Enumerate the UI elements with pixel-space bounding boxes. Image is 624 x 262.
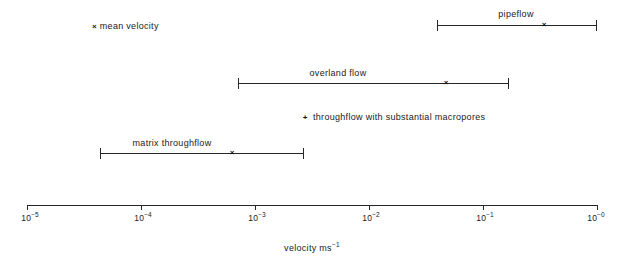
x-axis-tick-label: 10−2 (362, 211, 379, 223)
matrix-throughflow-left-cap (100, 148, 101, 159)
overland-flow-right-cap (508, 78, 509, 89)
tick-exponent: −3 (258, 211, 265, 218)
x-axis-tick-label: 10−3 (248, 211, 265, 223)
legend-label: mean velocity (100, 21, 159, 31)
legend: × mean velocity (92, 21, 159, 31)
x-axis-tick (141, 205, 142, 210)
tick-base: 10 (134, 213, 144, 223)
overland-flow-range-line (238, 83, 508, 84)
x-axis-tick-label: 10−1 (476, 211, 493, 223)
legend-marker-icon: × (92, 22, 97, 31)
x-axis-tick (27, 205, 28, 210)
x-axis-tick-label: 10−5 (21, 211, 38, 223)
overland-flow-left-cap (238, 78, 239, 89)
tick-base: 10 (248, 213, 258, 223)
x-axis-tick (255, 205, 256, 210)
pipeflow-mean-marker: × (542, 21, 547, 29)
matrix-throughflow-mean-marker: × (230, 149, 235, 157)
pipeflow-label: pipeflow (498, 9, 533, 19)
tick-base: 10 (362, 213, 372, 223)
tick-exponent: −4 (144, 211, 151, 218)
matrix-throughflow-range-line (100, 153, 303, 154)
x-axis-tick-label: 10−0 (587, 211, 604, 223)
x-axis-title: velocity ms−1 (284, 241, 340, 253)
tick-base: 10 (21, 213, 31, 223)
matrix-throughflow-label: matrix throughflow (133, 138, 212, 148)
matrix-throughflow-right-cap (303, 148, 304, 159)
pipeflow-range-line (437, 25, 596, 26)
velocity-range-figure: × mean velocity pipeflow × overland flow… (0, 0, 624, 262)
overland-flow-label: overland flow (310, 68, 367, 78)
x-axis-tick (483, 205, 484, 210)
x-axis-tick (597, 205, 598, 210)
pipeflow-right-cap (596, 20, 597, 31)
throughflow-macropores-mean-marker: + (303, 114, 308, 122)
x-axis-title-text: velocity ms (284, 243, 332, 253)
tick-exponent: −2 (372, 211, 379, 218)
x-axis-tick-label: 10−4 (134, 211, 151, 223)
tick-exponent: −1 (486, 211, 493, 218)
x-axis-tick (369, 205, 370, 210)
tick-base: 10 (587, 213, 597, 223)
throughflow-macropores-label: throughflow with substantial macropores (313, 112, 485, 122)
overland-flow-mean-marker: × (444, 79, 449, 87)
tick-base: 10 (476, 213, 486, 223)
x-axis-title-exponent: −1 (332, 241, 340, 248)
pipeflow-left-cap (437, 20, 438, 31)
tick-exponent: −5 (31, 211, 38, 218)
x-axis-line (27, 205, 597, 206)
tick-exponent: −0 (597, 211, 604, 218)
